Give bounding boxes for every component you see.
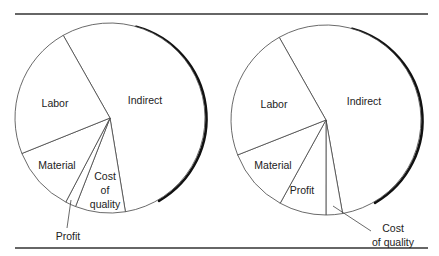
label-profit: Profit	[290, 184, 315, 196]
label-cost-of-quality-line2: of	[101, 184, 110, 196]
label-labor: Labor	[42, 97, 69, 109]
label-material: Material	[254, 159, 291, 171]
label-indirect: Indirect	[347, 95, 382, 107]
label-cost-of-quality-line1: Cost	[382, 222, 404, 234]
label-labor: Labor	[261, 98, 288, 110]
pie-chart-right	[231, 25, 423, 215]
label-profit: Profit	[56, 230, 81, 242]
label-cost-of-quality-line1: Cost	[94, 170, 116, 182]
label-cost-of-quality-line3: quality	[90, 198, 121, 210]
leader-line-profit	[67, 200, 71, 228]
label-cost-of-quality-line2: of quality	[372, 236, 415, 248]
pie-chart-left	[15, 23, 207, 213]
label-indirect: Indirect	[128, 94, 163, 106]
pie-comparison-figure: Labor Indirect Material Cost of quality …	[0, 0, 439, 256]
label-material: Material	[38, 159, 75, 171]
